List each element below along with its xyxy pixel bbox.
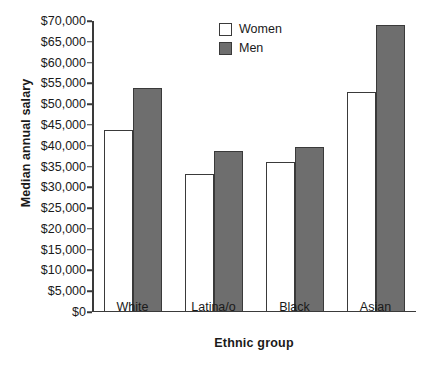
bar-asian-men xyxy=(376,25,405,312)
y-axis-tick-label: $15,000 xyxy=(28,243,86,256)
legend-item-women: Women xyxy=(219,20,282,39)
y-axis-tick-label: $60,000 xyxy=(28,56,86,69)
y-axis-tick-label: $35,000 xyxy=(28,160,86,173)
x-axis-category-label: Asian xyxy=(360,300,391,314)
bar-chart: Median annual salary $0$5,000$10,000$15,… xyxy=(0,0,442,370)
y-axis-tick-label: $5,000 xyxy=(28,285,86,298)
plot-area xyxy=(92,21,416,312)
y-axis-tick-label: $65,000 xyxy=(28,36,86,49)
y-axis-line xyxy=(92,21,94,312)
y-axis-tick-mark xyxy=(87,145,92,147)
y-axis-tick-mark xyxy=(87,103,92,105)
x-axis-category-label: Latina/o xyxy=(191,300,235,314)
y-axis-tick-mark xyxy=(87,62,92,64)
y-axis-tick-label: $55,000 xyxy=(28,77,86,90)
y-axis-tick-labels: $0$5,000$10,000$15,000$20,000$25,000$30,… xyxy=(28,0,86,370)
x-axis-category-label: White xyxy=(117,300,149,314)
bar-white-men xyxy=(133,88,162,312)
y-axis-tick-mark xyxy=(87,228,92,230)
y-axis-tick-mark xyxy=(87,166,92,168)
y-axis-tick-mark xyxy=(87,207,92,209)
y-axis-tick-label: $70,000 xyxy=(28,15,86,28)
bar-asian-women xyxy=(347,92,376,312)
chart-legend: WomenMen xyxy=(219,20,282,58)
x-axis-category-label: Black xyxy=(279,300,310,314)
y-axis-tick-mark xyxy=(87,83,92,85)
y-axis-tick-mark xyxy=(87,41,92,43)
y-axis-tick-label: $10,000 xyxy=(28,264,86,277)
y-axis-tick-mark xyxy=(87,290,92,292)
y-axis-tick-mark xyxy=(87,270,92,272)
y-axis-tick-mark xyxy=(87,187,92,189)
x-axis-title: Ethnic group xyxy=(92,336,416,350)
y-axis-tick-mark xyxy=(87,249,92,251)
legend-label: Women xyxy=(239,23,282,36)
y-axis-tick-mark xyxy=(87,124,92,126)
legend-swatch-men xyxy=(219,42,232,55)
bar-latina-o-men xyxy=(214,151,243,312)
bar-latina-o-women xyxy=(185,174,214,312)
legend-label: Men xyxy=(239,42,263,55)
y-axis-tick-label: $40,000 xyxy=(28,139,86,152)
y-axis-tick-label: $25,000 xyxy=(28,202,86,215)
legend-item-men: Men xyxy=(219,39,282,58)
y-axis-tick-label: $30,000 xyxy=(28,181,86,194)
y-axis-tick-label: $50,000 xyxy=(28,98,86,111)
y-axis-tick-mark xyxy=(87,311,92,313)
bar-black-men xyxy=(295,147,324,312)
y-axis-tick-mark xyxy=(87,20,92,22)
bar-white-women xyxy=(104,130,133,312)
bar-black-women xyxy=(266,162,295,312)
y-axis-tick-label: $0 xyxy=(28,306,86,319)
legend-swatch-women xyxy=(219,23,232,36)
y-axis-tick-label: $45,000 xyxy=(28,119,86,132)
y-axis-tick-label: $20,000 xyxy=(28,223,86,236)
